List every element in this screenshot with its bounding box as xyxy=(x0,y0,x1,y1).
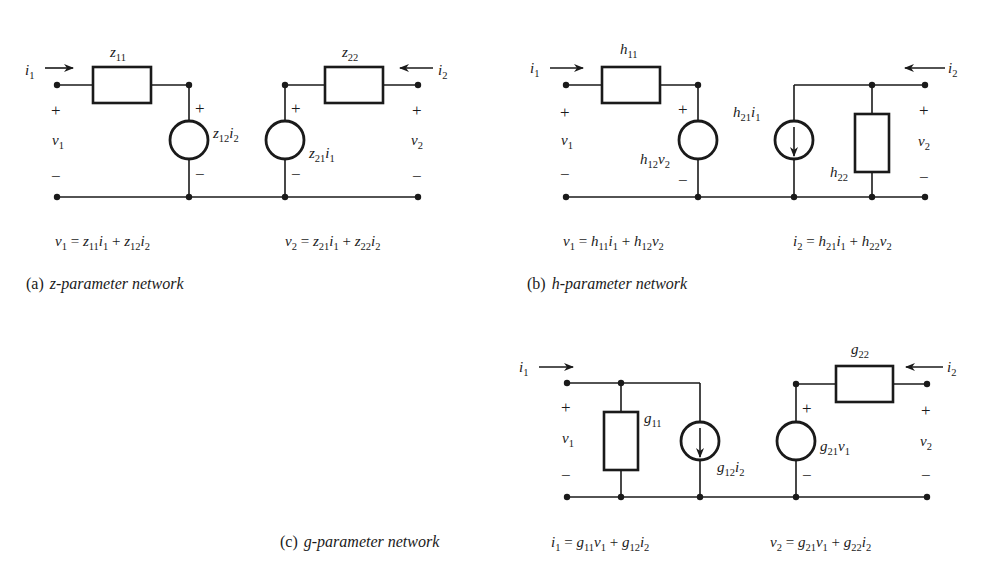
label-z21i1: z21i1 xyxy=(308,145,335,164)
port1-plus: + xyxy=(51,101,61,120)
label-v2: v2 xyxy=(411,132,423,151)
label-i2: i2 xyxy=(438,62,447,81)
source-plus: + xyxy=(678,100,688,119)
label-z22: z22 xyxy=(341,44,358,63)
source-left-minus: − xyxy=(195,165,205,184)
voltage-source-h12v2-icon xyxy=(679,121,717,159)
label-v2: v2 xyxy=(920,433,932,452)
impedance-g22 xyxy=(836,366,893,402)
label-h22: h22 xyxy=(830,164,848,183)
label-i2: i2 xyxy=(948,60,957,79)
port1-minus: − xyxy=(560,165,570,184)
port1-minus: − xyxy=(51,167,61,186)
equation-v1: v1 = z11i1 + z12i2 xyxy=(55,233,150,252)
impedance-h11 xyxy=(602,67,660,103)
caption-b: (b)h-parameter network xyxy=(527,275,688,293)
caption-c: (c)g-parameter network xyxy=(280,533,440,551)
label-h12v2: h12v2 xyxy=(640,151,670,170)
port2-plus: + xyxy=(921,401,931,420)
source-right-minus: − xyxy=(291,165,301,184)
label-i1: i1 xyxy=(519,359,528,378)
equation-v2: v2 = g21v1 + g22i2 xyxy=(770,534,871,553)
source-plus: + xyxy=(802,399,812,418)
label-h21i1: h21i1 xyxy=(733,104,760,123)
source-minus: − xyxy=(802,466,812,485)
impedance-z11 xyxy=(93,67,151,103)
voltage-source-g21v1-icon xyxy=(777,422,815,460)
label-v2: v2 xyxy=(918,133,930,152)
voltage-source-z12i2-icon xyxy=(170,121,208,159)
panel-c-g-parameter-network: i1 i2 g22 + v1 − + v2 − + − g11 g12i2 g2… xyxy=(280,341,956,553)
label-i1: i1 xyxy=(25,62,34,81)
label-g21v1: g21v1 xyxy=(820,438,850,457)
port2-plus: + xyxy=(919,101,929,120)
label-z11: z11 xyxy=(109,44,126,63)
port1-plus: + xyxy=(560,103,570,122)
panel-a-z-parameter-network: z11 z22 i1 i2 + v1 − + v2 − + − + − z12i… xyxy=(25,44,447,293)
panel-b-h-parameter-network: h11 i1 i2 + v1 − + v2 − + − h12v2 h21i1 … xyxy=(527,41,957,293)
label-g12i2: g12i2 xyxy=(717,459,744,478)
label-i2: i2 xyxy=(947,359,956,378)
admittance-g11 xyxy=(604,412,638,470)
impedance-z22 xyxy=(325,67,383,103)
equation-i2: i2 = h21i1 + h22v2 xyxy=(793,233,892,252)
source-minus: − xyxy=(678,171,688,190)
label-z12i2: z12i2 xyxy=(212,125,239,144)
port1-plus: + xyxy=(561,398,571,417)
label-i1: i1 xyxy=(530,60,539,79)
equation-v2: v2 = z21i1 + z22i2 xyxy=(285,233,380,252)
source-left-plus: + xyxy=(195,99,205,118)
source-right-plus: + xyxy=(291,99,301,118)
label-g22: g22 xyxy=(851,341,869,360)
port2-plus: + xyxy=(412,101,422,120)
label-v1: v1 xyxy=(562,430,574,449)
label-v1: v1 xyxy=(52,132,64,151)
port2-minus: − xyxy=(921,466,931,485)
voltage-source-z21i1-icon xyxy=(266,121,304,159)
port2-minus: − xyxy=(412,167,422,186)
caption-a: (a)z-parameter network xyxy=(26,275,184,293)
port1-minus: − xyxy=(561,466,571,485)
port2-minus: − xyxy=(919,168,929,187)
two-port-parameter-figure: z11 z22 i1 i2 + v1 − + v2 − + − + − z12i… xyxy=(0,0,988,583)
label-v1: v1 xyxy=(561,132,573,151)
equation-i1: i1 = g11v1 + g12i2 xyxy=(551,534,649,553)
admittance-h22 xyxy=(855,114,889,172)
label-h11: h11 xyxy=(620,41,638,60)
equation-v1: v1 = h11i1 + h12v2 xyxy=(563,233,664,252)
label-g11: g11 xyxy=(644,410,662,429)
